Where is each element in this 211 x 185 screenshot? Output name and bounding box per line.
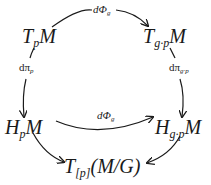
node-tail: (M/G) xyxy=(90,155,140,177)
label-sub: p xyxy=(30,67,34,75)
node-base: H xyxy=(155,116,169,138)
node-base: T xyxy=(64,155,75,177)
node-sub: g·p xyxy=(169,127,184,141)
node-tail: M xyxy=(39,25,56,47)
node-sub: [p] xyxy=(75,166,90,180)
node-sub: g·p xyxy=(154,36,169,50)
node-tail: M xyxy=(169,25,186,47)
label-top-dphi: dΦg xyxy=(92,4,111,17)
label-right-dpi: dπg·p xyxy=(168,62,190,75)
label-main: dπ xyxy=(169,61,180,73)
node-tgpm: Tg·pM xyxy=(143,26,186,49)
node-base: H xyxy=(5,116,19,138)
label-main: dΦ xyxy=(93,3,107,15)
arrow-right xyxy=(170,48,175,58)
node-quotient: T[p](M/G) xyxy=(64,156,140,179)
node-tail: M xyxy=(184,116,201,138)
node-base: T xyxy=(22,25,33,47)
label-sub: g xyxy=(107,9,111,17)
label-sub: g xyxy=(111,115,115,123)
node-hgpm: Hg·pM xyxy=(155,117,201,140)
arrow-top xyxy=(52,10,92,27)
node-base: T xyxy=(143,25,154,47)
node-tpm: TpM xyxy=(22,26,56,49)
node-tail: M xyxy=(25,116,42,138)
label-main: dπ xyxy=(19,61,30,73)
node-hpm: HpM xyxy=(5,117,42,140)
label-left-dpi: dπp xyxy=(18,62,35,75)
label-middle-dphi: dΦg xyxy=(96,110,115,123)
label-main: dΦ xyxy=(97,109,111,121)
label-sub: g·p xyxy=(180,67,189,75)
